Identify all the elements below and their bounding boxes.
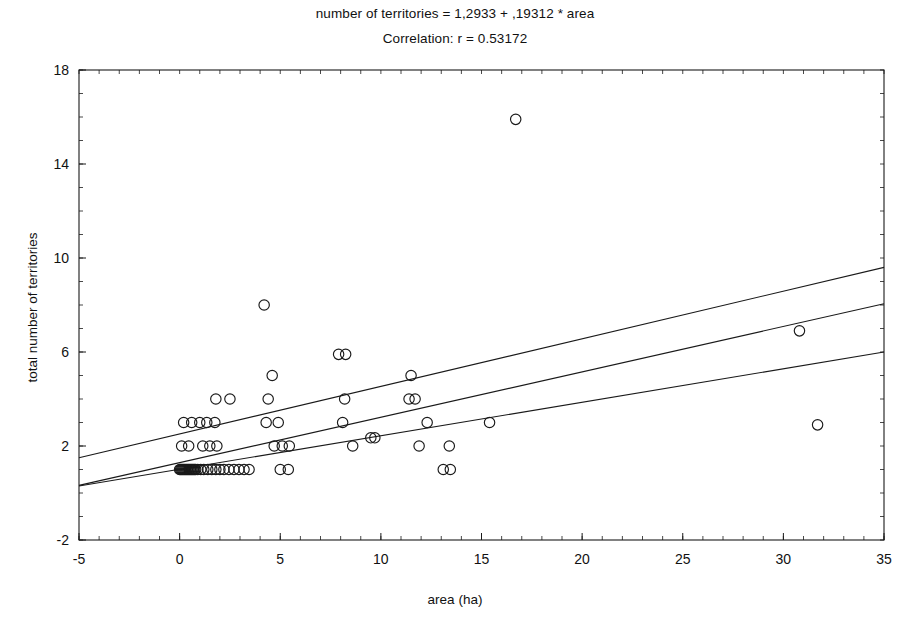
data-point-marker xyxy=(284,441,294,451)
data-point-marker xyxy=(283,464,293,474)
data-point-marker xyxy=(211,394,221,404)
x-tick-label: 20 xyxy=(574,551,590,567)
x-tick-label: 25 xyxy=(675,551,691,567)
data-point-marker xyxy=(794,326,804,336)
data-point-marker xyxy=(404,394,414,404)
x-tick-label: 5 xyxy=(276,551,284,567)
data-point-marker xyxy=(812,420,822,430)
data-point-marker xyxy=(259,300,269,310)
x-tick-label: 15 xyxy=(474,551,490,567)
y-tick-label: 2 xyxy=(61,438,69,454)
data-point-marker xyxy=(267,370,277,380)
data-point-marker xyxy=(273,417,283,427)
data-point-marker xyxy=(444,441,454,451)
data-point-marker xyxy=(348,441,358,451)
data-point-marker xyxy=(414,441,424,451)
x-tick-label: 30 xyxy=(776,551,792,567)
x-tick-label: 10 xyxy=(373,551,389,567)
y-tick-label: 18 xyxy=(53,62,69,78)
data-point-marker xyxy=(225,394,235,404)
data-point-marker xyxy=(212,441,222,451)
x-tick-label: 0 xyxy=(176,551,184,567)
y-tick-label: 6 xyxy=(61,344,69,360)
data-point-marker xyxy=(263,394,273,404)
scatter-plot-figure: number of territories = 1,2933 + ,19312 … xyxy=(0,0,910,628)
y-tick-label: 14 xyxy=(53,156,69,172)
confidence-band-upper xyxy=(79,267,884,457)
plot-canvas: -505101520253035-226101418 xyxy=(0,0,910,628)
data-point-marker xyxy=(445,464,455,474)
data-point-marker xyxy=(422,417,432,427)
data-point-marker xyxy=(183,441,193,451)
y-tick-label: 10 xyxy=(53,250,69,266)
y-tick-label: -2 xyxy=(57,532,70,548)
data-point-marker xyxy=(410,394,420,404)
data-point-marker xyxy=(511,114,521,124)
data-point-marker xyxy=(484,417,494,427)
x-tick-label: 35 xyxy=(876,551,892,567)
x-tick-label: -5 xyxy=(73,551,86,567)
data-point-marker xyxy=(261,417,271,427)
data-point-marker xyxy=(340,349,350,359)
regression-line xyxy=(79,304,884,486)
